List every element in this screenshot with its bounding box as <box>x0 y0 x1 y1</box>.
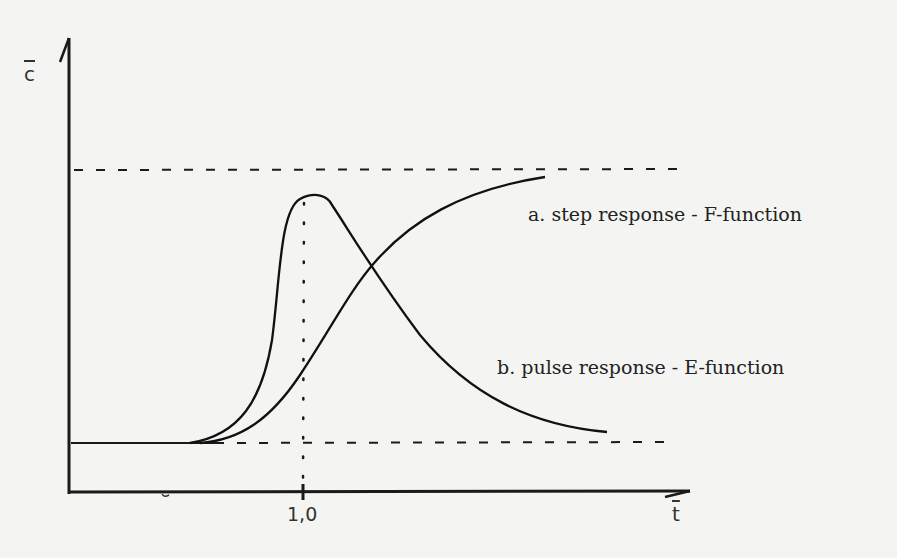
x-axis <box>68 491 690 492</box>
upper-asymptote-line <box>74 169 690 170</box>
axis-mark <box>162 494 169 496</box>
baseline-dashed <box>215 442 672 443</box>
x-tick-label-1: 1,0 <box>287 503 317 525</box>
y-axis-label: c <box>24 62 35 86</box>
curve-b-label: b. pulse response - E-function <box>497 356 784 378</box>
response-chart <box>0 0 897 558</box>
pulse-response-curve <box>190 195 607 443</box>
dotted-line-t1 <box>303 203 304 490</box>
curve-a-label: a. step response - F-function <box>528 203 802 225</box>
x-axis-label: t <box>672 502 680 526</box>
